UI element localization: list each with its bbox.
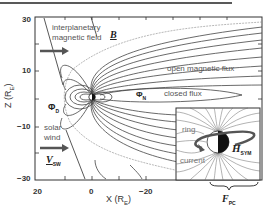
fpc-brace [210, 182, 258, 190]
y-axis-label-sub: E [9, 86, 15, 90]
phi-n-sub: N [143, 95, 147, 101]
y-tick-30: 30 [22, 16, 31, 24]
open-flux-label: open magnetic flux [167, 65, 234, 73]
vsw-symbol: VSW [46, 155, 61, 167]
y-axis-label: Z (RE) [4, 83, 15, 108]
solar-wind-line2: wind [44, 133, 61, 143]
phi-d-sub: D [55, 108, 59, 114]
hsym-sub: SYM [241, 150, 252, 156]
hsym-label: HSYM [232, 143, 251, 156]
x-axis-label: X (RE) [106, 195, 131, 206]
fpc-sub: PC [229, 200, 236, 206]
current-label: current [180, 157, 205, 165]
imf-label: interplanetary magnetic field [52, 23, 101, 43]
ring-label: ring [182, 126, 195, 134]
earth [89, 94, 95, 100]
left-ticks [35, 44, 39, 153]
hsym-symbol: H [232, 142, 241, 154]
bottom-ticks [65, 176, 146, 180]
open-field-lines-south [91, 99, 178, 179]
fpc-label: FPC [222, 194, 236, 206]
fpc-symbol: F [222, 193, 229, 204]
x-tick-20: 20 [33, 188, 42, 196]
imf-label-line2: magnetic field [52, 33, 101, 43]
y-tick-10: 10 [22, 67, 31, 75]
vsw-symbol-v: V [46, 154, 53, 165]
phi-n-symbol: Φ [136, 90, 143, 99]
y-tick-minus-10: −10 [17, 123, 31, 131]
y-axis-label-text: Z (R [3, 91, 13, 109]
phi-d-label: ΦD [48, 103, 59, 114]
imf-label-line1: interplanetary [52, 23, 101, 33]
right-ticks [258, 44, 262, 99]
x-axis-label-text: X (R [106, 194, 124, 204]
magnetosphere-figure [0, 0, 272, 215]
solar-wind-label: solar wind [44, 123, 61, 143]
y-axis-label-close: ) [3, 83, 13, 86]
solar-wind-line1: solar [44, 123, 61, 133]
x-tick-minus-20: −20 [139, 188, 153, 196]
phi-n-label: ΦN [136, 91, 146, 101]
vsw-symbol-sub: SW [53, 161, 61, 167]
closed-flux-label: closed flux [164, 90, 202, 98]
x-axis-label-close: ) [128, 194, 131, 204]
x-tick-0: 0 [89, 188, 93, 196]
y-tick-minus-30: −30 [17, 175, 31, 183]
imf-symbol-b: B [110, 30, 117, 40]
solar-wind-arrow [40, 144, 69, 152]
